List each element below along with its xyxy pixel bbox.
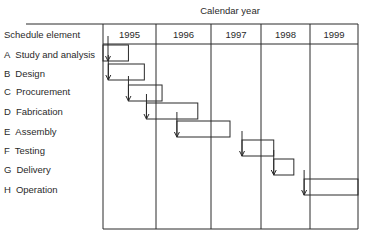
bar-d bbox=[146, 103, 197, 119]
year-label: 1996 bbox=[173, 29, 194, 40]
year-labels: 19951996199719981999 bbox=[119, 29, 345, 40]
element-label: DFabrication bbox=[4, 106, 63, 117]
element-name: Fabrication bbox=[16, 106, 63, 117]
bar-b bbox=[108, 64, 144, 80]
element-name: Operation bbox=[16, 184, 58, 195]
bar-c bbox=[128, 85, 162, 101]
element-letter: E bbox=[4, 126, 10, 137]
year-label: 1998 bbox=[275, 29, 296, 40]
element-label: FTesting bbox=[4, 145, 45, 156]
element-letter: H bbox=[4, 184, 11, 195]
calendar-year-title: Calendar year bbox=[200, 5, 260, 16]
element-name: Design bbox=[15, 68, 45, 79]
element-label: GDelivery bbox=[4, 164, 51, 175]
year-label: 1995 bbox=[119, 29, 140, 40]
element-letter: A bbox=[4, 49, 11, 60]
element-name: Delivery bbox=[16, 164, 51, 175]
element-name: Procurement bbox=[16, 86, 71, 97]
bar-e bbox=[177, 121, 230, 137]
element-labels: AStudy and analysisBDesignCProcurementDF… bbox=[4, 49, 95, 195]
element-letter: G bbox=[4, 164, 11, 175]
element-letter: B bbox=[4, 68, 10, 79]
year-label: 1999 bbox=[323, 29, 344, 40]
dependency-arrows bbox=[106, 36, 307, 195]
bar-f bbox=[242, 140, 274, 156]
element-label: CProcurement bbox=[4, 86, 71, 97]
element-label: EAssembly bbox=[4, 126, 57, 137]
schedule-diagram: Calendar year Schedule element 199519961… bbox=[0, 0, 368, 241]
bar-h bbox=[304, 179, 358, 195]
element-letter: D bbox=[4, 106, 11, 117]
element-label: HOperation bbox=[4, 184, 58, 195]
element-name: Study and analysis bbox=[15, 49, 95, 60]
bar-g bbox=[274, 159, 294, 175]
element-label: BDesign bbox=[4, 68, 45, 79]
element-letter: F bbox=[4, 145, 10, 156]
element-label: AStudy and analysis bbox=[4, 49, 95, 60]
element-name: Testing bbox=[15, 145, 45, 156]
schedule-element-header: Schedule element bbox=[4, 29, 80, 40]
element-letter: C bbox=[4, 86, 11, 97]
year-label: 1997 bbox=[225, 29, 246, 40]
bars bbox=[103, 45, 358, 195]
element-name: Assembly bbox=[15, 126, 56, 137]
